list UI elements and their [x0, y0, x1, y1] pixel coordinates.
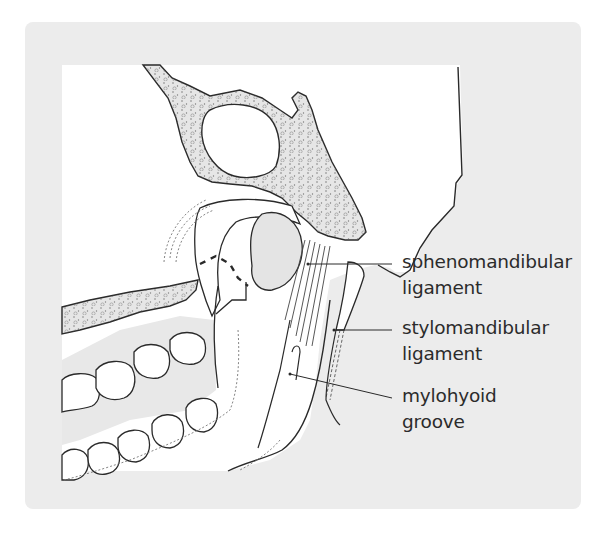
stylomandibular-ligament — [326, 330, 344, 400]
label-line: ligament — [402, 275, 572, 301]
label-line: groove — [402, 409, 497, 435]
leader-dot-sphenomandibular — [307, 263, 310, 266]
label-line: stylomandibular — [402, 315, 549, 341]
label-line: sphenomandibular — [402, 249, 572, 275]
label-line: ligament — [402, 341, 549, 367]
label-stylomandibular-ligament: stylomandibular ligament — [402, 315, 549, 367]
label-line: mylohyoid — [402, 383, 497, 409]
ramus-posterior-border — [326, 330, 340, 425]
leader-dot-stylomandibular — [333, 329, 336, 332]
label-sphenomandibular-ligament: sphenomandibular ligament — [402, 249, 572, 301]
label-mylohyoid-groove: mylohyoid groove — [402, 383, 497, 435]
leader-dot-mylohyoid — [289, 373, 292, 376]
